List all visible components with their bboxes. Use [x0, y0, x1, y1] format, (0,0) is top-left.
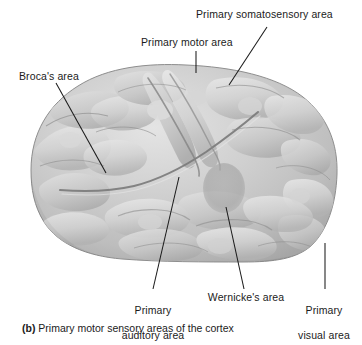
caption-tag: (b) [22, 322, 35, 334]
brain-anatomy-figure: Primary somatosensory area Primary motor… [0, 0, 362, 345]
label-primary-motor-area: Primary motor area [141, 36, 233, 49]
label-brocas-area: Broca's area [19, 70, 79, 83]
caption-text: Primary motor sensory areas of the corte… [38, 322, 234, 334]
label-wernickes-area: Wernicke's area [205, 291, 287, 304]
label-primary-somatosensory-area: Primary somatosensory area [196, 8, 333, 21]
label-line-1: Primary [135, 304, 172, 316]
label-line-2: visual area [298, 329, 350, 341]
wernickes-area-shading [203, 163, 245, 213]
figure-caption: (b) Primary motor sensory areas of the c… [22, 322, 234, 334]
label-primary-visual-area: Primary visual area [292, 291, 356, 341]
label-line-1: Primary [306, 304, 343, 316]
